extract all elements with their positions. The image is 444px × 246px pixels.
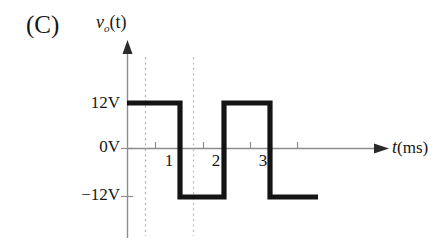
x-axis-label: t(ms) <box>392 138 428 156</box>
x-axis-label-unit: (ms) <box>397 138 428 157</box>
x-tick-label-2: 2 <box>206 152 226 169</box>
y-axis-arrowhead <box>123 40 133 54</box>
y-axis <box>123 40 133 238</box>
panel-label: (C) <box>26 12 59 37</box>
dotted-guide-lines <box>146 57 194 236</box>
figure-container: (C) vo(t) t(ms) 12V 0V −12V 1 2 3 <box>0 0 444 246</box>
y-tick-label-12v: 12V <box>58 94 120 111</box>
x-tick-label-1: 1 <box>159 152 179 169</box>
y-tick-label-0v: 0V <box>58 138 120 155</box>
y-axis-label: vo(t) <box>96 13 127 34</box>
x-tick-label-3: 3 <box>253 152 273 169</box>
waveform-trace <box>127 103 318 197</box>
y-axis-label-argument: (t) <box>110 12 127 32</box>
y-tick-label-neg12v: −12V <box>42 186 120 203</box>
y-axis-label-variable: v <box>96 12 104 32</box>
waveform-plot <box>0 0 444 246</box>
x-axis-arrowhead <box>374 144 389 154</box>
